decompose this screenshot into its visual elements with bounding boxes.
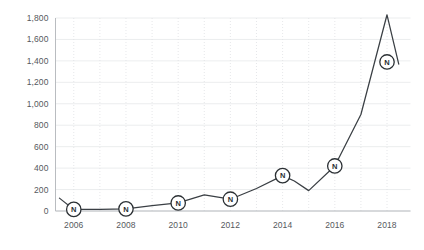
y-axis-tick-label: 1,600 <box>27 34 49 44</box>
marker-letter-n: N <box>384 58 389 67</box>
x-axis-tick-label: 2006 <box>64 220 83 230</box>
series-path-n <box>59 15 398 210</box>
data-point-marker-n: N <box>380 55 394 69</box>
chart-axes <box>56 18 411 211</box>
line-chart-container: 02004006008001,0001,2001,4001,6001,800 2… <box>0 0 424 250</box>
y-axis-tick-labels: 02004006008001,0001,2001,4001,6001,800 <box>27 13 49 216</box>
data-point-marker-n: N <box>67 202 81 216</box>
marker-letter-n: N <box>332 162 337 171</box>
x-axis-tick-label: 2008 <box>116 220 135 230</box>
x-axis-tick-label: 2016 <box>325 220 344 230</box>
chart-canvas: 02004006008001,0001,2001,4001,6001,800 2… <box>0 0 424 250</box>
y-axis-tick-label: 0 <box>44 206 49 216</box>
y-axis-tick-label: 1,200 <box>27 77 49 87</box>
data-point-marker-n: N <box>275 168 289 182</box>
y-axis-tick-label: 1,400 <box>27 56 49 66</box>
vertical-gridlines <box>74 18 387 211</box>
horizontal-gridlines <box>56 18 411 211</box>
data-series-line <box>59 15 398 210</box>
y-axis-tick-label: 200 <box>34 185 49 195</box>
y-axis-tick-label: 1,000 <box>27 99 49 109</box>
marker-letter-n: N <box>228 195 233 204</box>
y-axis-tick-label: 400 <box>34 163 49 173</box>
marker-letter-n: N <box>71 205 76 214</box>
y-axis-tick-label: 1,800 <box>27 13 49 23</box>
y-axis-tick-label: 800 <box>34 120 49 130</box>
marker-letter-n: N <box>175 199 180 208</box>
data-point-marker-n: N <box>171 196 185 210</box>
marker-letter-n: N <box>280 171 285 180</box>
x-axis-tick-label: 2014 <box>273 220 292 230</box>
y-axis-tick-label: 600 <box>34 142 49 152</box>
x-axis-tick-labels: 2006200820102012201420162018 <box>64 220 397 230</box>
x-axis-tick-label: 2018 <box>377 220 396 230</box>
x-axis-tick-label: 2010 <box>169 220 188 230</box>
data-point-marker-n: N <box>119 202 133 216</box>
x-axis-tick-label: 2012 <box>221 220 240 230</box>
marker-letter-n: N <box>123 205 128 214</box>
data-point-marker-n: N <box>328 159 342 173</box>
data-point-marker-n: N <box>223 192 237 206</box>
